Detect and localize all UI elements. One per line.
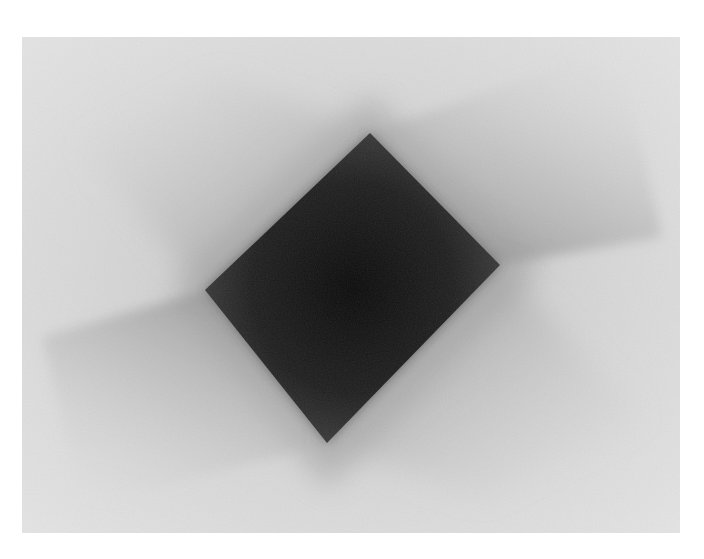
abstract-photo <box>22 37 680 533</box>
film-grain <box>22 37 680 533</box>
shadow-square-image <box>22 37 680 533</box>
page-canvas: Dark square with soft gray shadows on li… <box>0 0 704 559</box>
